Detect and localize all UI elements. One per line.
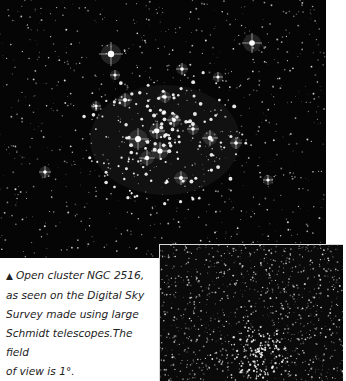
triangle-up-icon: ▲ xyxy=(6,271,13,281)
wide-star-field-image xyxy=(160,245,343,381)
inset-photo-wide-field xyxy=(159,244,343,381)
photo-caption: ▲Open cluster NGC 2516, as seen on the D… xyxy=(6,266,156,381)
main-photo-ngc2516 xyxy=(0,0,326,258)
caption-main: ▲Open cluster NGC 2516, as seen on the D… xyxy=(6,266,156,381)
star-field-image xyxy=(0,0,326,258)
